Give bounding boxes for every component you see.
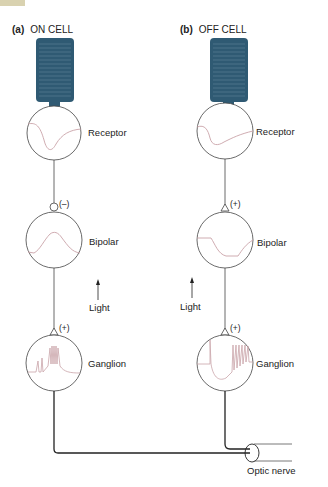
- label-optic-nerve: Optic nerve: [247, 465, 296, 476]
- label-receptor-off: Receptor: [256, 126, 295, 137]
- panel-title: ON CELL: [30, 24, 73, 35]
- bipolar-cell: [197, 212, 253, 268]
- panel-title-off-cell: (b)OFF CELL: [180, 24, 247, 35]
- inhibitory-synapse-icon: [50, 203, 58, 211]
- label-bipolar-on: Bipolar: [89, 236, 119, 247]
- panel-title-on-cell: (a)ON CELL: [12, 24, 73, 35]
- off-cell-pathway: [190, 38, 253, 449]
- sign-synapse-off-bipolar: (+): [230, 199, 241, 209]
- excitatory-synapse-icon: [50, 328, 58, 335]
- panel-letter: (b): [180, 24, 193, 35]
- label-receptor-on: Receptor: [88, 127, 127, 138]
- ganglion-cell: [26, 335, 82, 391]
- label-light-off: Light: [180, 301, 201, 312]
- label-ganglion-on: Ganglion: [88, 358, 126, 369]
- excitatory-synapse-icon: [221, 204, 229, 211]
- optic-nerve: [245, 444, 292, 462]
- receptor-cell: [197, 103, 253, 159]
- bipolar-cell: [26, 212, 82, 268]
- label-ganglion-off: Ganglion: [256, 358, 294, 369]
- sign-synapse-off-ganglion: (+): [230, 323, 241, 333]
- sign-synapse-on-bipolar: (–): [59, 199, 69, 209]
- label-bipolar-off: Bipolar: [257, 237, 287, 248]
- panel-letter: (a): [12, 24, 24, 35]
- photoreceptor-outer-segment: [210, 38, 248, 102]
- photoreceptor-outer-segment: [36, 38, 74, 102]
- excitatory-synapse-icon: [221, 328, 229, 335]
- label-light-on: Light: [89, 302, 110, 313]
- ganglion-cell: [197, 335, 253, 391]
- panel-title: OFF CELL: [199, 24, 247, 35]
- sign-synapse-on-ganglion: (+): [59, 323, 70, 333]
- receptor-cell: [27, 106, 81, 160]
- corner-tab: [0, 0, 25, 6]
